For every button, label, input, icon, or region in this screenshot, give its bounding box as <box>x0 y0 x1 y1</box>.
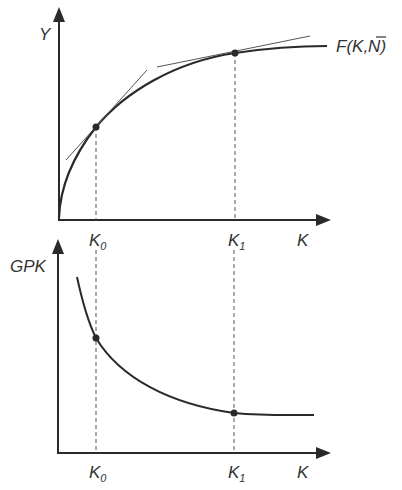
top-k1-label: K1 <box>228 231 245 252</box>
top-x-label: K <box>297 231 309 250</box>
point-k1-top <box>232 50 239 57</box>
bottom-x-axis-arrow-icon <box>316 447 331 459</box>
tangent-k0 <box>66 70 147 160</box>
gpk-curve <box>77 277 314 415</box>
top-x-axis-arrow-icon <box>316 214 331 226</box>
bottom-y-label: GPK <box>10 257 47 276</box>
bottom-y-axis-arrow-icon <box>52 239 64 254</box>
top-y-label: Y <box>39 25 52 44</box>
top-chart: Y F(K,N) K0 K1 K <box>39 7 386 252</box>
production-curve <box>59 46 327 218</box>
bottom-k1-label: K1 <box>228 463 245 484</box>
point-k1-bottom <box>231 410 238 417</box>
bottom-x-label: K <box>297 463 309 482</box>
n-bar: N <box>368 37 381 56</box>
bottom-k0-label: K0 <box>89 463 107 484</box>
top-k0-label: K0 <box>89 231 107 252</box>
top-y-axis-arrow-icon <box>53 7 65 22</box>
curve-label: F(K,N) <box>336 37 386 56</box>
bottom-chart: GPK K0 K1 K <box>10 239 331 484</box>
point-k0-top <box>93 124 100 131</box>
point-k0-bottom <box>93 335 100 342</box>
production-function-figure: Y F(K,N) K0 K1 K GPK K0 <box>0 0 402 490</box>
